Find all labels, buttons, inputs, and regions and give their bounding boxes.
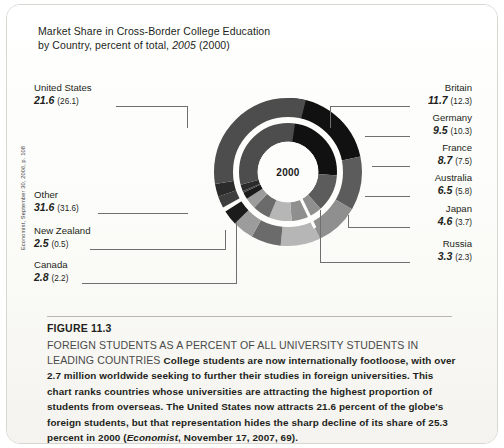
label-france-value: 8.7 (7.5) [438,154,472,168]
figure-body-part-1: College students are now internationally… [47,355,456,444]
leader-united-states-vert [187,106,188,128]
label-japan-value-2005: 4.6 [438,215,453,227]
leader-britain [330,106,410,107]
leader-united-states [116,106,188,107]
label-australia-value: 6.5 (5.8) [435,184,472,198]
leader-canada-vert [236,222,237,284]
chart-title: Market Share in Cross-Border College Edu… [38,24,338,52]
label-other-value: 31.6 (31.6) [34,201,79,215]
label-united-states-value-2005: 21.6 [34,94,54,106]
label-canada-value-2005: 2.8 [34,271,49,283]
donut-svg [208,92,368,252]
double-donut-chart: 2000 [208,92,368,252]
label-france-value-2005: 8.7 [438,154,453,166]
label-united-states: United States 21.6 (26.1) [34,82,92,108]
figure-page: Market Share in Cross-Border College Edu… [0,0,504,448]
label-australia-value-2005: 6.5 [438,184,453,196]
label-australia-value-2000: (5.8) [455,187,472,196]
label-new-zealand-name: New Zealand [34,225,91,237]
label-russia-name: Russia [438,238,472,250]
label-new-zealand-value-2005: 2.5 [34,237,49,249]
label-new-zealand-value: 2.5 (0.5) [34,237,91,251]
label-japan: Japan 4.6 (3.7) [438,203,472,229]
leader-russia [320,262,410,263]
leader-france [372,166,410,167]
chart-title-line-2-prefix: by Country, percent of total, [38,39,172,51]
leader-britain-vert [330,106,331,128]
label-germany-value-2000: (10.3) [451,127,472,136]
leader-new-zealand-vert [225,230,226,250]
figure-caption: FOREIGN STUDENTS AS A PERCENT OF ALL UNI… [47,338,459,446]
label-britain-value-2005: 11.7 [428,94,448,106]
label-germany-value-2005: 9.5 [433,124,448,136]
label-japan-name: Japan [438,203,472,215]
label-britain-value: 11.7 (12.3) [428,94,472,108]
label-russia-value-2000: (2.3) [455,253,472,262]
label-united-states-value-2000: (26.1) [57,97,78,106]
label-japan-value: 4.6 (3.7) [438,215,472,229]
leader-germany [365,136,410,137]
label-canada: Canada 2.8 (2.2) [34,259,68,285]
leader-other [98,213,188,214]
leader-russia-vert [320,210,321,263]
chart-title-line-1: Market Share in Cross-Border College Edu… [38,25,270,37]
label-britain-name: Britain [428,82,472,94]
label-united-states-name: United States [34,82,92,94]
label-germany: Germany 9.5 (10.3) [433,112,472,138]
label-other-name: Other [34,189,79,201]
label-canada-value-2000: (2.2) [52,274,69,283]
leader-australia [365,196,410,197]
label-united-states-value: 21.6 (26.1) [34,94,92,108]
label-france: France 8.7 (7.5) [438,142,472,168]
label-germany-value: 9.5 (10.3) [433,124,472,138]
label-new-zealand-value-2000: (0.5) [52,240,69,249]
label-australia: Australia 6.5 (5.8) [435,172,472,198]
figure-body-source: Economist [127,432,178,443]
chart-title-line-2-suffix: (2000) [196,39,230,51]
figure-number: FIGURE 11.3 [47,322,112,334]
chart-area: 2005 [20,70,480,315]
label-russia-value-2005: 3.3 [438,250,453,262]
label-russia: Russia 3.3 (2.3) [438,238,472,264]
caption-divider [47,316,452,317]
leader-japan-vert [348,215,349,228]
label-australia-name: Australia [435,172,472,184]
chart-title-year: 2005 [172,39,196,51]
label-other-value-2005: 31.6 [34,201,54,213]
leader-japan [348,227,410,228]
label-canada-value: 2.8 (2.2) [34,271,68,285]
label-britain-value-2000: (12.3) [451,97,472,106]
figure-body-part-2: , November 17, 2007, 69). [178,432,298,443]
leader-canada [82,283,237,284]
label-other-value-2000: (31.6) [57,204,78,213]
label-russia-value: 3.3 (2.3) [438,250,472,264]
label-france-value-2000: (7.5) [455,157,472,166]
label-japan-value-2000: (3.7) [455,218,472,227]
figure-body: College students are now internationally… [47,355,456,444]
label-new-zealand: New Zealand 2.5 (0.5) [34,225,91,251]
label-france-name: France [438,142,472,154]
label-britain: Britain 11.7 (12.3) [428,82,472,108]
label-canada-name: Canada [34,259,68,271]
leader-new-zealand [90,249,226,250]
label-germany-name: Germany [433,112,472,124]
label-other: Other 31.6 (31.6) [34,189,79,215]
